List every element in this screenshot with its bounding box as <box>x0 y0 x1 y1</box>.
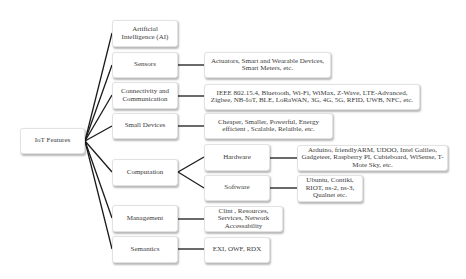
node-small-devices: Small Devices <box>112 113 178 139</box>
node-semantics-label: Semantics <box>131 246 160 253</box>
node-ai-label: Artificial Intelligence (AI) <box>116 26 174 41</box>
node-connectivity-detail: IEEE 802.15.4, Bluetooth, Wi-Fi, WiMax, … <box>204 84 420 110</box>
node-hardware-label: Hardware <box>223 154 251 161</box>
node-management-detail: Clint , Resources, Services, Network Acc… <box>204 206 283 232</box>
node-hardware-detail: Arduino, friendlyARM, UDOO, Intel Galile… <box>297 145 448 171</box>
node-small-devices-detail-label: Cheaper, Smaller, Powerful, Energy effic… <box>208 119 329 134</box>
node-semantics-detail-label: EXI, OWF, RDX <box>213 246 261 253</box>
node-sensors-detail-label: Actuators, Smart and Wearable Devices, S… <box>208 58 327 73</box>
node-software-detail-label: Ubuntu, Contiki, RIOT, ns-2, ns-3, Qualn… <box>301 177 359 199</box>
node-management-detail-label: Clint , Resources, Services, Network Acc… <box>208 208 279 230</box>
node-management: Management <box>112 205 178 232</box>
node-small-devices-label: Small Devices <box>125 122 166 129</box>
node-connectivity-detail-label: IEEE 802.15.4, Bluetooth, Wi-Fi, WiMax, … <box>208 90 416 105</box>
node-sensors-label: Sensors <box>134 61 156 68</box>
node-software-detail: Ubuntu, Contiki, RIOT, ns-2, ns-3, Qualn… <box>297 175 363 202</box>
node-software: Software <box>204 175 270 201</box>
node-sensors-detail: Actuators, Smart and Wearable Devices, S… <box>204 52 331 78</box>
node-sensors: Sensors <box>112 52 178 78</box>
root-label: IoT Features <box>35 137 70 144</box>
node-software-label: Software <box>224 184 249 191</box>
node-ai: Artificial Intelligence (AI) <box>112 20 178 47</box>
node-hardware-detail-label: Arduino, friendlyARM, UDOO, Intel Galile… <box>301 147 444 169</box>
node-connectivity: Connectivity and Communication <box>112 82 178 109</box>
node-computation-label: Computation <box>127 169 164 176</box>
node-management-label: Management <box>127 215 164 222</box>
node-small-devices-detail: Cheaper, Smaller, Powerful, Energy effic… <box>204 113 333 139</box>
node-semantics: Semantics <box>112 236 178 263</box>
node-hardware: Hardware <box>204 144 270 171</box>
node-semantics-detail: EXI, OWF, RDX <box>204 237 270 263</box>
node-computation: Computation <box>112 159 178 186</box>
root-node-iot-features: IoT Features <box>20 128 85 154</box>
node-connectivity-label: Connectivity and Communication <box>116 88 174 103</box>
